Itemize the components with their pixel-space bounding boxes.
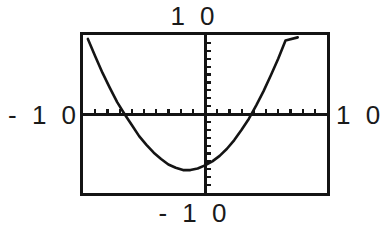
x-min-label: - 1 0 (8, 102, 76, 128)
plot-area (83, 35, 327, 193)
y-max-label: 1 0 (0, 3, 389, 29)
y-min-label: - 1 0 (0, 200, 389, 226)
graph-screen: 1 0 - 1 0 1 0 - 1 0 (0, 0, 389, 232)
plot-frame (80, 32, 330, 196)
x-max-label: 1 0 (336, 102, 386, 128)
parabola-curve (88, 37, 298, 170)
